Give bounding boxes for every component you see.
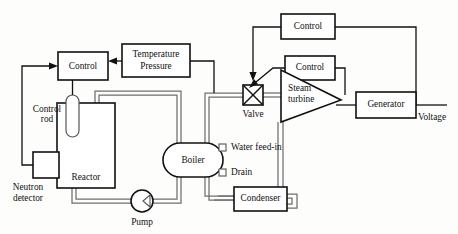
pump-node[interactable]: Pump [131,190,153,227]
generator-node[interactable]: Generator Voltage [356,92,447,122]
diagram-canvas: Reactor Control rod Neutron detector Con… [0,0,458,234]
neutron-detector-node[interactable]: Neutron detector [13,62,59,203]
neutron-detector-label-line1: Neutron [13,182,44,192]
reactor-label: Reactor [72,172,102,182]
water-feed-in-label: Water feed-in [231,142,282,152]
valve-node[interactable]: Valve [242,85,263,119]
temperature-pressure-node[interactable]: Temperature Pressure [108,44,214,93]
generator-label: Generator [367,99,405,109]
condenser-node[interactable]: Condenser [234,187,287,211]
temperature-pressure-label-line1: Temperature [133,49,180,59]
control-top-label: Control [294,21,323,31]
control-rod-label-line2: rod [41,114,54,124]
control-rod-label-line1: Control [33,104,62,114]
temperature-pressure-label-line2: Pressure [140,61,172,71]
valve-label: Valve [242,109,263,119]
control-reactor-label: Control [69,61,98,71]
voltage-label: Voltage [418,112,446,122]
steam-turbine-label-line2: turbine [288,94,314,104]
arrowhead-tempress-to-control [108,57,117,64]
power-plant-diagram: Reactor Control rod Neutron detector Con… [0,0,458,234]
arrowhead-governor-to-valve [249,72,256,81]
steam-turbine-label-line1: Steam [288,83,312,93]
boiler-label: Boiler [181,155,205,165]
control-valve-label: Control [296,62,325,72]
boiler-node[interactable]: Boiler Water feed-in Drain [163,142,282,177]
control-reactor-node[interactable]: Control [58,52,108,80]
control-rod-node[interactable]: Control rod [33,80,79,137]
pump-label: Pump [131,217,153,227]
condenser-label: Condenser [241,193,282,203]
neutron-detector-label-line2: detector [13,193,44,203]
arrowhead-detector-to-control [49,62,58,69]
drain-label: Drain [231,167,253,177]
